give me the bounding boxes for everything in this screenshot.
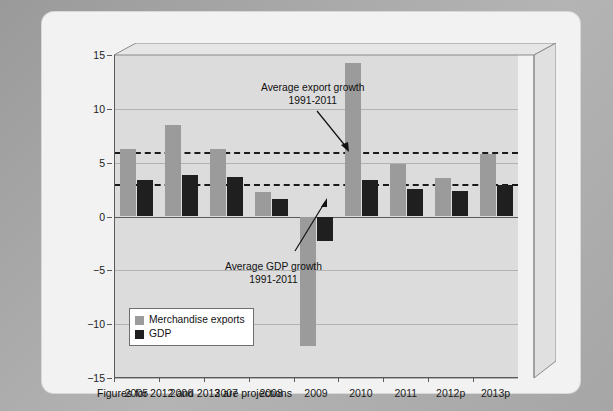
annotation-gdp-avg-line2: 1991-2011 [225,273,322,286]
bar [362,180,378,217]
bar [227,177,243,217]
legend-item-merchandise-exports: Merchandise exports [135,313,245,327]
legend-label-gdp: GDP [149,327,171,341]
y-tick-mark [107,270,112,271]
annotation-export-avg-line2: 1991-2011 [261,94,364,107]
x-tick-label: 2011 [394,387,417,399]
legend-label-exports: Merchandise exports [149,313,245,327]
bar [407,189,423,217]
bar [272,199,288,216]
annotation-export-avg-line1: Average export growth [261,81,364,94]
y-tick-label: 10 [93,103,105,115]
legend-swatch-icon-exports [135,316,144,325]
bar [255,192,271,217]
x-tick-mark [114,378,115,382]
legend-item-gdp: GDP [135,327,245,341]
bar [435,178,451,217]
y-tick-label: 15 [93,49,105,61]
x-tick-mark [383,378,384,382]
bar [210,149,226,217]
y-tick-mark [107,55,112,56]
y-tick-mark [107,163,112,164]
bar [137,180,153,217]
x-tick-label: 2009 [304,387,327,399]
y-tick-mark [107,109,112,110]
x-tick-mark [473,378,474,382]
legend: Merchandise exports GDP [129,308,254,346]
x-tick-mark [338,378,339,382]
bar [390,164,406,217]
y-tick-mark [107,217,112,218]
bar [480,154,496,216]
gridline [115,378,518,379]
bar [497,185,513,216]
y-tick-label: 0 [99,211,105,223]
y-axis: 151050−5−10−15 [78,55,112,378]
annotation-gdp-avg: Average GDP growth 1991-2011 [225,260,322,286]
y-tick-mark [107,378,112,379]
legend-swatch-icon-gdp [135,330,144,339]
x-tick-mark [159,378,160,382]
y-tick-label: −15 [87,372,105,384]
annotation-gdp-avg-line1: Average GDP growth [225,260,322,273]
y-tick-label: −10 [87,318,105,330]
x-tick-label: 2010 [349,387,372,399]
x-tick-mark [294,378,295,382]
y-tick-label: −5 [93,264,105,276]
y-tick-mark [107,324,112,325]
chart-area: 151050−5−10−15 Average export growth 199… [114,43,556,383]
footnote: Figures for 2012 and 2013 are projection… [97,387,292,399]
x-tick-mark [204,378,205,382]
y-tick-label: 5 [99,157,105,169]
bar [317,217,333,242]
x-tick-label: 2012p [436,387,465,399]
x-tick-label: 2013p [481,387,510,399]
gridline [115,55,518,56]
bar [452,191,468,217]
x-tick-mark [428,378,429,382]
x-tick-mark [249,378,250,382]
plot-region: Average export growth 1991-2011 Average … [114,55,518,378]
gridline [115,109,518,110]
figure-panel: 151050−5−10−15 Average export growth 199… [42,12,580,393]
annotation-export-avg: Average export growth 1991-2011 [261,81,364,107]
bar [120,149,136,217]
bar [182,175,198,217]
bar [165,125,181,217]
